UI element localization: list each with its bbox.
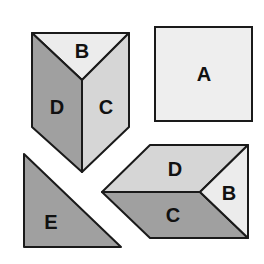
square-a: A (155, 27, 252, 121)
triangle-e-face (24, 154, 121, 247)
label-b-lying: B (222, 182, 236, 204)
label-a: A (197, 63, 211, 85)
label-c-standing: C (99, 96, 113, 118)
diagram-canvas: B D C A E D C B (0, 0, 264, 264)
label-e: E (44, 211, 57, 233)
triangle-e: E (24, 154, 121, 247)
label-b-standing: B (75, 40, 89, 62)
standing-prism: B D C (32, 33, 129, 172)
label-c-lying: C (166, 204, 180, 226)
shapes-diagram: B D C A E D C B (0, 0, 264, 264)
label-d-lying: D (168, 158, 182, 180)
label-d-standing: D (50, 96, 64, 118)
lying-prism: D C B (102, 145, 248, 238)
